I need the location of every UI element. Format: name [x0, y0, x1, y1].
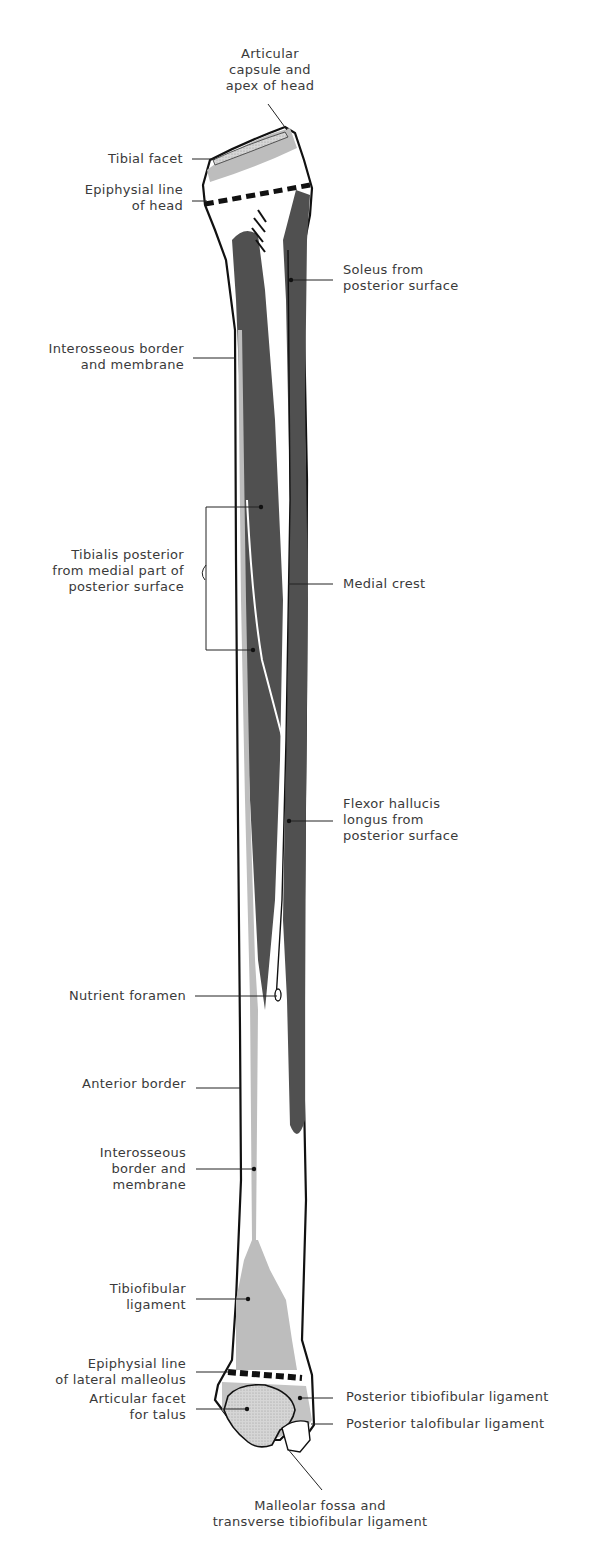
label-posterior-tibiofibular-ligament: Posterior tibiofibular ligament	[346, 1389, 606, 1405]
label-nutrient-foramen: Nutrient foramen	[10, 988, 186, 1004]
label-epiphysial-line-malleolus: Epiphysial line of lateral malleolus	[10, 1356, 186, 1388]
label-tibial-facet: Tibial facet	[20, 151, 183, 167]
fibula-diagram	[0, 0, 613, 1556]
malleolar-fossa-region	[282, 1421, 310, 1452]
label-soleus: Soleus from posterior surface	[343, 262, 583, 294]
label-interosseous-lower: Interosseous border and membrane	[10, 1145, 186, 1193]
label-anterior-border: Anterior border	[10, 1076, 186, 1092]
label-articular-facet-talus: Articular facet for talus	[10, 1391, 186, 1423]
label-medial-crest: Medial crest	[343, 576, 543, 592]
label-interosseous-upper: Interosseous border and membrane	[10, 341, 184, 373]
label-articular-capsule: Articular capsule and apex of head	[205, 46, 335, 94]
label-tibialis-posterior: Tibialis posterior from medial part of p…	[10, 547, 184, 595]
label-flexor-hallucis-longus: Flexor hallucis longus from posterior su…	[343, 796, 543, 844]
label-epiphysial-line-head: Epiphysial line of head	[20, 182, 183, 214]
tibialis-brace	[202, 565, 206, 580]
label-malleolar-fossa: Malleolar fossa and transverse tibiofibu…	[170, 1498, 470, 1530]
label-posterior-talofibular-ligament: Posterior talofibular ligament	[346, 1416, 606, 1432]
nutrient-foramen-mark	[275, 989, 281, 1001]
label-tibiofibular-ligament: Tibiofibular ligament	[10, 1281, 186, 1313]
